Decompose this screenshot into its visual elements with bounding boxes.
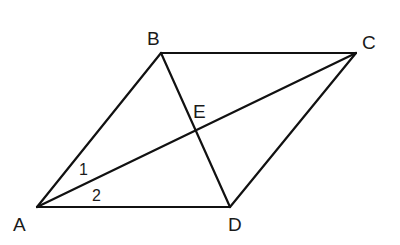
angle-label-2: 2 [92,187,101,204]
diagonal-bd [161,53,230,207]
side-cd [230,53,356,207]
vertex-label-b: B [147,28,160,49]
parallelogram-figure: A B C D E 1 2 [0,0,400,245]
vertex-label-c: C [362,32,376,53]
angle-label-1: 1 [79,161,88,178]
side-ab [37,53,161,207]
geometry-diagram: A B C D E 1 2 [0,0,400,245]
vertex-label-d: D [228,214,242,235]
vertex-label-a: A [13,214,26,235]
point-label-e: E [193,101,206,122]
